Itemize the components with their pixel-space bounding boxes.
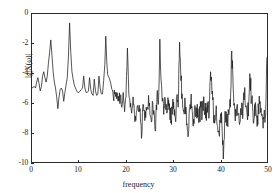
xtick-mark-2 bbox=[126, 160, 127, 163]
spectrum-line-chart bbox=[32, 14, 267, 162]
xtick-label-0: 0 bbox=[21, 166, 41, 174]
xtick-mark-4 bbox=[221, 160, 222, 163]
ytick-mark-3 bbox=[31, 103, 34, 104]
ytick-label-4: -8 bbox=[8, 129, 28, 137]
ytick-label-0: 0 bbox=[8, 9, 28, 17]
y-axis-label: lg|X(ω)| bbox=[25, 36, 33, 96]
ytick-mark-5 bbox=[31, 163, 34, 164]
spectrum-series bbox=[32, 23, 267, 159]
xtick-label-5: 50 bbox=[258, 166, 277, 174]
xtick-label-3: 30 bbox=[163, 166, 183, 174]
xtick-mark-0 bbox=[31, 160, 32, 163]
xtick-label-4: 40 bbox=[211, 166, 231, 174]
ytick-mark-0 bbox=[31, 13, 34, 14]
xtick-label-2: 20 bbox=[116, 166, 136, 174]
xtick-mark-3 bbox=[173, 160, 174, 163]
ytick-mark-4 bbox=[31, 133, 34, 134]
x-axis-label: frequency bbox=[0, 180, 277, 189]
xtick-mark-1 bbox=[78, 160, 79, 163]
xtick-label-1: 10 bbox=[68, 166, 88, 174]
xtick-mark-5 bbox=[267, 160, 268, 163]
figure-container: 0 -2 -4 -6 -8 -10 0 10 20 30 40 50 lg|X(… bbox=[0, 0, 277, 193]
ytick-label-3: -6 bbox=[8, 99, 28, 107]
plot-area bbox=[31, 13, 268, 163]
